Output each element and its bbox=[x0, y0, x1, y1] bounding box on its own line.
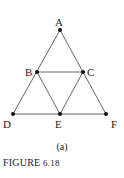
label-c: C bbox=[87, 67, 94, 78]
point-f bbox=[104, 112, 108, 116]
label-d: D bbox=[3, 119, 11, 130]
point-e bbox=[58, 112, 62, 116]
point-d bbox=[11, 112, 15, 116]
label-f: F bbox=[111, 119, 117, 130]
label-e: E bbox=[55, 119, 62, 130]
point-a bbox=[58, 28, 62, 32]
caption-label: FIGURE bbox=[3, 157, 40, 168]
point-c bbox=[81, 70, 85, 74]
figure-caption: FIGURE 6.18 bbox=[3, 157, 60, 168]
edge-c-e bbox=[60, 72, 83, 114]
label-a: A bbox=[55, 17, 63, 28]
caption-number: 6.18 bbox=[43, 158, 60, 168]
edge-b-e bbox=[37, 72, 60, 114]
label-b: B bbox=[25, 67, 32, 78]
figure-sublabel: (a) bbox=[0, 142, 124, 152]
point-b bbox=[35, 70, 39, 74]
